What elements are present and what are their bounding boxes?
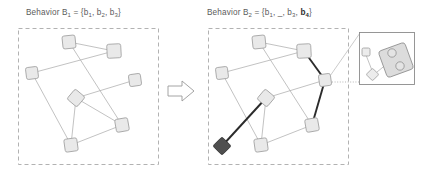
edge-R5-R4 — [266, 80, 325, 98]
edge-L5-L4 — [76, 80, 135, 98]
node-R2[interactable] — [297, 44, 312, 59]
transition-arrow-icon — [168, 81, 194, 101]
node-L7[interactable] — [64, 138, 79, 153]
edge-R3-R2 — [222, 51, 304, 73]
inset-small-square — [362, 48, 370, 56]
inset-circle-2 — [396, 62, 404, 70]
node-R4[interactable] — [318, 73, 332, 87]
node-L4[interactable] — [128, 73, 142, 87]
edge-R6-R7 — [261, 125, 312, 145]
node-L6[interactable] — [114, 117, 129, 132]
node-L2[interactable] — [107, 44, 122, 59]
node-L5[interactable] — [67, 89, 85, 107]
figure-canvas: Behavior B1 = {b1, b2, b3} Behavior B2 =… — [0, 0, 424, 174]
diagram-svg — [0, 0, 424, 174]
node-R3[interactable] — [215, 66, 228, 79]
inset-circle-1 — [388, 49, 396, 57]
edge-L6-L7 — [71, 125, 122, 145]
inset-leader-top — [330, 33, 360, 76]
edge-L3-L2 — [32, 51, 114, 73]
node-R7[interactable] — [254, 138, 269, 153]
behavior-b1-boundary — [19, 29, 159, 165]
node-L1[interactable] — [62, 35, 76, 49]
node-L3[interactable] — [25, 66, 38, 79]
edge-L3-L7 — [32, 73, 71, 145]
node-R1[interactable] — [252, 35, 266, 49]
node-R6[interactable] — [304, 117, 319, 132]
